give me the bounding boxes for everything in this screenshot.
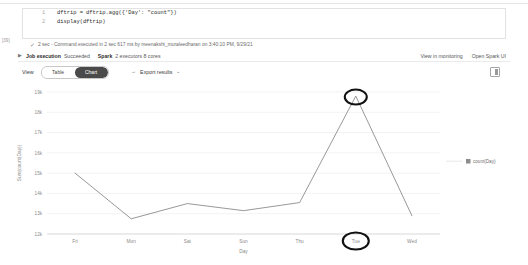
job-execution-label: Job execution (26, 53, 61, 59)
y-axis-tick-label: 16k (35, 151, 43, 156)
y-axis-tick-label: 13k (35, 211, 43, 216)
code-line: 1 dftrip = dftrip.agg({'Day': "count"}) (23, 9, 505, 18)
code-line: 2 display(dftrip) (23, 18, 505, 27)
export-results-label: Export results (140, 69, 172, 75)
cell-index-tag: [39] (2, 38, 10, 43)
y-axis-tick-label: 18k (35, 110, 43, 115)
results-toolbar: View Table Chart → Export results ⌄ (22, 64, 510, 80)
y-axis-tick-label: 15k (35, 171, 43, 176)
top-divider (0, 3, 528, 4)
job-status-text: Succeeded (64, 53, 90, 59)
x-axis-tick-label: Sat (184, 239, 192, 244)
tab-table[interactable]: Table (42, 67, 75, 78)
job-links: View in monitoring Open Spark UI (420, 53, 510, 59)
export-arrow-icon: → (131, 69, 137, 75)
view-toggle-group: Table Chart (41, 66, 109, 79)
x-axis-tick-label: Mon (127, 239, 137, 244)
job-execution-bar[interactable]: ▶ Job execution Succeeded Spark 2 execut… (18, 50, 510, 61)
x-axis-tick-label: Thu (296, 239, 305, 244)
execution-status-text: 2 sec - Command executed in 2 sec 617 ms… (38, 42, 253, 47)
view-in-monitoring-link[interactable]: View in monitoring (420, 53, 462, 59)
y-axis-tick-label: 19k (35, 90, 43, 95)
chart-container: 19k18k17k16k15k14k13k12kFriMonSatSunThuT… (0, 82, 528, 265)
line-number: 1 (27, 9, 45, 18)
line-number: 2 (27, 18, 45, 27)
spark-detail-text: 2 executors 8 cores (115, 53, 160, 59)
code-text: dftrip = dftrip.agg({'Day': "count"}) (57, 9, 177, 18)
check-icon: ✓ (30, 42, 35, 48)
open-spark-ui-link[interactable]: Open Spark UI (472, 53, 506, 59)
legend-swatch (466, 159, 471, 164)
side-panel-icon[interactable] (490, 67, 500, 77)
chevron-right-icon[interactable]: ▶ (18, 53, 22, 58)
chevron-down-icon: ⌄ (176, 70, 180, 75)
y-axis-title: Sum(count(Day)) (17, 144, 22, 181)
code-text: display(dftrip) (57, 18, 106, 27)
x-axis-tick-label: Tue (352, 239, 360, 244)
spark-label: Spark (98, 53, 112, 59)
export-results-button[interactable]: → Export results ⌄ (131, 69, 181, 75)
y-axis-tick-label: 17k (35, 130, 43, 135)
view-label: View (22, 69, 34, 75)
x-axis-tick-label: Fri (72, 239, 78, 244)
x-axis-title: Day (239, 249, 248, 254)
data-series-line[interactable] (75, 96, 412, 219)
execution-status-row: ✓ 2 sec - Command executed in 2 sec 617 … (22, 39, 506, 50)
line-chart: 19k18k17k16k15k14k13k12kFriMonSatSunThuT… (0, 82, 528, 265)
toolbar-divider (18, 61, 510, 62)
x-axis-tick-label: Wed (407, 239, 417, 244)
notebook-code-cell[interactable]: 1 dftrip = dftrip.agg({'Day': "count"}) … (22, 8, 506, 39)
x-axis-tick-label: Sun (239, 239, 248, 244)
y-axis-tick-label: 12k (35, 232, 43, 237)
legend-label: count(Day) (473, 159, 496, 164)
tab-chart[interactable]: Chart (75, 67, 108, 78)
y-axis-tick-label: 14k (35, 191, 43, 196)
